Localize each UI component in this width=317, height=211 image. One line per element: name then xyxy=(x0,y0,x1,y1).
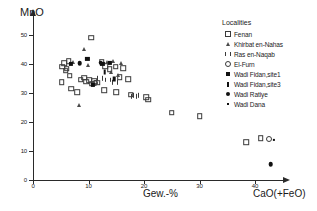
data-point xyxy=(59,79,65,85)
legend-symbol-triangle-open xyxy=(226,42,230,46)
legend-item-label: El-Furn xyxy=(234,61,255,68)
legend-item-label: Fenan xyxy=(234,31,252,38)
legend-item-label: Ras en-Naqab xyxy=(234,51,275,58)
data-point xyxy=(109,70,113,74)
data-point xyxy=(119,61,123,65)
data-point xyxy=(121,65,127,71)
legend-marker-icon xyxy=(222,42,234,46)
data-point xyxy=(146,97,152,103)
legend-title: Localities xyxy=(222,19,283,26)
data-point xyxy=(273,139,275,141)
legend-symbol-square-open xyxy=(225,31,231,37)
legend-symbol-circle-filled xyxy=(226,92,231,97)
data-point xyxy=(116,73,120,77)
data-point xyxy=(113,64,119,70)
data-point xyxy=(68,86,74,92)
legend-item: Wadi Ratiye xyxy=(222,89,283,99)
data-point xyxy=(69,62,73,66)
legend-marker-icon xyxy=(222,61,234,67)
data-point xyxy=(169,110,175,116)
legend-marker-icon xyxy=(222,72,234,76)
data-point xyxy=(103,69,106,74)
legend-item-label: Wadi Fidan,site1 xyxy=(234,71,281,78)
legend-item-label: Wadi Fidan,site3 xyxy=(234,81,281,88)
data-point xyxy=(88,35,94,41)
data-point xyxy=(86,63,90,67)
legend-item: Ras en-Naqab xyxy=(222,49,283,59)
legend-item: Fenan xyxy=(222,29,283,39)
data-point xyxy=(113,89,119,95)
legend-item: Wadi Fidan,site1 xyxy=(222,69,283,79)
legend-item-label: Wadi Ratiye xyxy=(234,91,268,98)
data-point xyxy=(243,139,249,145)
data-point xyxy=(75,89,81,95)
legend-marker-icon xyxy=(222,92,234,97)
data-point xyxy=(197,114,203,120)
data-point xyxy=(108,61,112,65)
legend-symbol-bars-open xyxy=(225,52,231,56)
data-point xyxy=(101,88,107,94)
data-point xyxy=(77,61,82,66)
data-point xyxy=(268,162,273,167)
legend-entries: FenanKhirbat en-NahasRas en-NaqabEl-Furn… xyxy=(222,29,283,109)
legend-marker-icon xyxy=(222,52,234,56)
legend-symbol-bar-filled xyxy=(227,82,230,87)
data-point xyxy=(91,83,95,87)
legend-item-label: Khirbat en-Nahas xyxy=(234,41,283,48)
legend: Localities FenanKhirbat en-NahasRas en-N… xyxy=(222,19,283,109)
data-point xyxy=(85,57,89,61)
legend-symbol-square-filled xyxy=(226,72,230,76)
data-point xyxy=(105,78,111,82)
data-point xyxy=(98,60,103,65)
data-point xyxy=(77,103,81,107)
legend-item: Khirbat en-Nahas xyxy=(222,39,283,49)
legend-item-label: Wadi Dana xyxy=(234,101,265,108)
legend-item: Wadi Dana xyxy=(222,99,283,109)
data-point xyxy=(131,94,137,98)
legend-item: El-Furn xyxy=(222,59,283,69)
data-point xyxy=(113,76,116,81)
legend-item: Wadi Fidan,site3 xyxy=(222,79,283,89)
data-point xyxy=(67,73,73,79)
data-point xyxy=(82,47,86,51)
scatter-plot-figure: 010203040 01020304050 MnO Gew.-% CaO(+Fe… xyxy=(0,0,317,211)
data-point xyxy=(126,76,132,82)
legend-marker-icon xyxy=(222,103,234,105)
data-point xyxy=(266,136,272,142)
data-point xyxy=(258,136,264,142)
data-point xyxy=(97,76,103,80)
legend-symbol-circle-open xyxy=(225,61,231,67)
legend-marker-icon xyxy=(222,82,234,87)
legend-symbol-dot-filled xyxy=(227,103,229,105)
legend-marker-icon xyxy=(222,31,234,37)
